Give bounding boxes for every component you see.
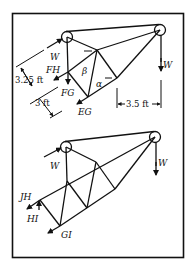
top-truss-diagram: W W FH FG EG β α 3.25 ft 3 ft 3.5 ft <box>15 25 173 119</box>
fg-label: FG <box>60 88 74 98</box>
dimension-3-5-ft: 3.5 ft <box>126 99 149 109</box>
w-left-arrow-icon <box>44 148 61 157</box>
w-left-label: W <box>50 52 60 62</box>
w-right-label: W <box>163 60 173 70</box>
hi-label: HI <box>26 214 39 224</box>
gi-label: GI <box>61 230 72 240</box>
dimension-3-ft: 3 ft <box>35 98 50 108</box>
eg-arrow-icon <box>77 97 88 104</box>
w-left-arrow-icon <box>47 39 62 48</box>
beta-label: β <box>81 66 87 76</box>
truss-free-body-diagrams: W W FH FG EG β α 3.25 ft 3 ft 3.5 ft <box>0 0 192 267</box>
w-right-label: W <box>158 158 168 168</box>
fh-label: FH <box>45 65 60 75</box>
bottom-truss-diagram: W W JH HI GI <box>18 132 168 241</box>
dimension-3-25-ft: 3.25 ft <box>15 75 44 85</box>
jh-label: JH <box>18 192 32 202</box>
alpha-label: α <box>96 79 102 89</box>
gi-arrow-icon <box>48 226 60 233</box>
eg-label: EG <box>77 107 92 117</box>
w-left-label: W <box>50 161 60 171</box>
